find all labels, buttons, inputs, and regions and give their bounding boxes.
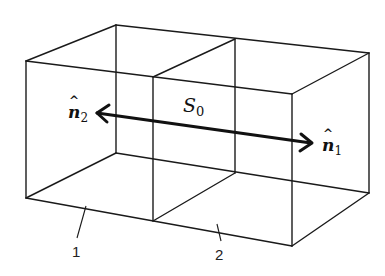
s0-subscript: 0: [196, 104, 204, 119]
n1-symbol: n: [322, 137, 334, 154]
right-bottom-depth-edge: [292, 193, 369, 246]
back-top-edge: [116, 25, 369, 53]
right-top-depth-edge: [292, 53, 369, 94]
normal-n2-label: n2: [68, 104, 88, 124]
left-top-depth-edge: [26, 25, 116, 61]
region-2-label: 2: [215, 247, 223, 262]
s0-symbol: S: [183, 94, 196, 116]
box-top-edges: [26, 25, 369, 94]
n2-symbol: n: [68, 104, 80, 121]
normal-arrow: [97, 105, 312, 151]
surface-s0-label: S0: [183, 96, 204, 118]
region-1-label: 1: [72, 244, 80, 259]
n1-subscript: 1: [334, 144, 342, 158]
front-bottom-edge: [26, 198, 292, 246]
region-1-leader-line: [77, 206, 86, 238]
normal-n1-label: n1: [322, 137, 342, 157]
middle-bottom-depth-edge: [153, 173, 235, 221]
front-top-edge: [26, 61, 292, 94]
n2-subscript: 2: [80, 111, 88, 125]
left-bottom-depth-edge: [26, 153, 116, 198]
middle-top-depth-edge: [153, 39, 235, 77]
back-bottom-edge: [116, 153, 369, 193]
